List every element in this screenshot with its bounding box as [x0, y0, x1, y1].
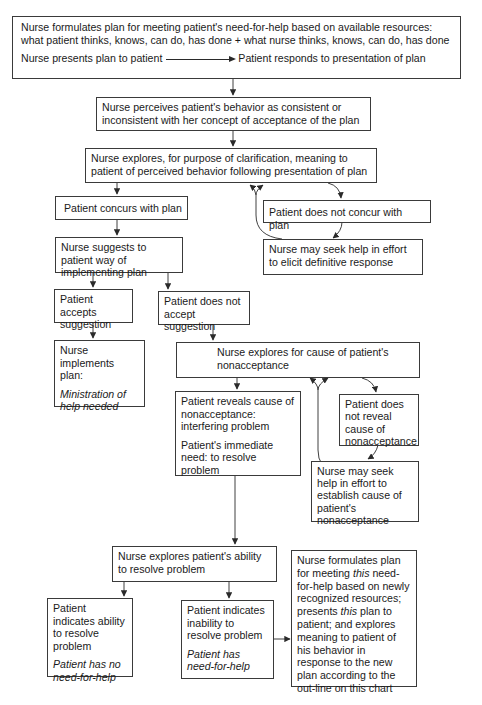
loop-branch-cause-right: [318, 378, 328, 390]
node-explores-clarification: Nurse explores, for purpose of clarifica…: [85, 148, 377, 183]
node-reveals: Patient reveals cause of nonacceptance: …: [175, 391, 301, 476]
node-explores-ability: Nurse explores patient's ability to reso…: [112, 546, 277, 582]
responds-text: Patient responds to presentation of plan: [238, 52, 425, 64]
inability-text: Patient indicates inability to resolve p…: [187, 604, 268, 642]
node-formulate-plan: Nurse formulates plan for meeting patien…: [12, 16, 461, 79]
new-plan-this-2: this: [341, 605, 358, 617]
accepts-text: Patient accepts suggestion: [60, 293, 127, 331]
node-not-concur: Patient does not concur with plan: [263, 200, 431, 223]
node-suggests: Nurse suggests to patient way of impleme…: [55, 237, 183, 273]
suggests-text: Nurse suggests to patient way of impleme…: [61, 241, 177, 279]
not-concur-text: Patient does not concur with plan: [269, 206, 425, 231]
node-explores-cause: Nurse explores for cause of patient's no…: [176, 342, 420, 378]
node-concurs: Patient concurs with plan: [55, 196, 188, 220]
node-new-plan: Nurse formulates plan for meeting this n…: [291, 550, 417, 687]
arrow-right-icon: [166, 59, 234, 60]
concurs-text: Patient concurs with plan: [64, 202, 182, 215]
seek-help-cause-text: Nurse may seek help in effort to establi…: [317, 465, 413, 526]
formulate-plan-line2: what patient thinks, knows, can do, has …: [21, 34, 452, 47]
loop-branch-right: [256, 185, 263, 195]
implements-text: Nurse implements plan:: [60, 344, 139, 382]
node-implements: Nurse implements plan: Ministration of h…: [54, 340, 145, 407]
reveals-need-text: Patient's immediate need: to resolve pro…: [181, 439, 295, 477]
inability-italic: Patient has need-for-help: [187, 648, 268, 673]
new-plan-text: Nurse formulates plan for meeting this n…: [297, 554, 411, 695]
seek-help-response-text: Nurse may seek help in effort to elicit …: [269, 243, 417, 268]
node-inability: Patient indicates inability to resolve p…: [181, 600, 274, 679]
ability-text: Patient indicates ability to resolve pro…: [53, 602, 127, 652]
explores-cause-text: Nurse explores for cause of patient's no…: [217, 346, 414, 371]
node-accepts: Patient accepts suggestion: [54, 289, 133, 323]
node-ability: Patient indicates ability to resolve pro…: [47, 598, 133, 677]
presents-plan-text: Nurse presents plan to patient: [21, 52, 162, 64]
not-reveal-text: Patient does not reveal cause of nonacce…: [345, 398, 413, 448]
new-plan-this-1: this: [353, 567, 370, 579]
arrow-explores-to-not-concur: [328, 183, 341, 198]
node-not-accept: Patient does not accept suggestion: [158, 291, 250, 325]
explores-clarification-text: Nurse explores, for purpose of clarifica…: [91, 152, 371, 177]
node-perceives: Nurse perceives patient's behavior as co…: [96, 97, 371, 131]
perceives-text: Nurse perceives patient's behavior as co…: [102, 101, 365, 126]
not-accept-text: Patient does not accept suggestion: [164, 295, 244, 333]
present-respond-row: Nurse presents plan to patientPatient re…: [21, 52, 452, 65]
new-plan-part-c: plan to patient; and explores meaning to…: [297, 605, 396, 694]
ability-italic: Patient has no need-for-help: [53, 658, 127, 683]
node-seek-help-cause: Nurse may seek help in effort to establi…: [311, 461, 419, 522]
node-seek-help-response: Nurse may seek help in effort to elicit …: [263, 239, 423, 275]
node-not-reveal: Patient does not reveal cause of nonacce…: [339, 394, 419, 446]
loop-seek-help-cause-to-explores: [310, 378, 333, 470]
formulate-plan-line1: Nurse formulates plan for meeting patien…: [21, 21, 452, 34]
explores-ability-text: Nurse explores patient's ability to reso…: [118, 550, 271, 575]
arrow-explores-cause-to-not-reveal: [362, 378, 376, 392]
implements-italic: Ministration of help needed: [60, 388, 139, 413]
reveals-text: Patient reveals cause of nonacceptance: …: [181, 395, 295, 433]
